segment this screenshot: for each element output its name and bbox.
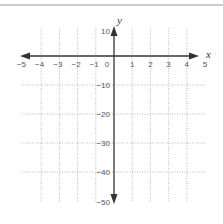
y-tick-label: −20 bbox=[96, 110, 110, 119]
x-tick-label: −4 bbox=[35, 60, 45, 69]
x-tick-labels: −5−4−3−2−1012345 bbox=[17, 60, 208, 69]
y-axis-down-arrow-icon bbox=[111, 194, 118, 204]
x-tick-label: 0 bbox=[105, 60, 110, 69]
y-axis-up-arrow-icon bbox=[111, 26, 118, 36]
x-axis-label: x bbox=[205, 48, 211, 60]
x-tick-label: 2 bbox=[148, 60, 153, 69]
x-axis-right-arrow-icon bbox=[189, 53, 199, 60]
x-tick-label: −1 bbox=[90, 60, 100, 69]
y-tick-label: 10 bbox=[101, 27, 110, 36]
y-tick-label: −30 bbox=[96, 139, 110, 148]
x-tick-label: 4 bbox=[185, 60, 190, 69]
x-tick-label: −5 bbox=[17, 60, 27, 69]
y-tick-label: −50 bbox=[96, 198, 110, 207]
x-tick-label: 1 bbox=[130, 60, 135, 69]
x-tick-label: 5 bbox=[203, 60, 208, 69]
x-axis-left-arrow-icon bbox=[20, 53, 30, 60]
x-tick-label: −3 bbox=[53, 60, 63, 69]
x-tick-label: −2 bbox=[71, 60, 81, 69]
y-axis-label: y bbox=[116, 14, 122, 26]
y-tick-label: −10 bbox=[96, 81, 110, 90]
coordinate-plane: x y −5−4−3−2−1012345 10−10−20−30−40−50 bbox=[0, 0, 223, 224]
y-tick-label: −40 bbox=[96, 168, 110, 177]
y-tick-labels: 10−10−20−30−40−50 bbox=[96, 27, 110, 207]
x-tick-label: 3 bbox=[166, 60, 171, 69]
